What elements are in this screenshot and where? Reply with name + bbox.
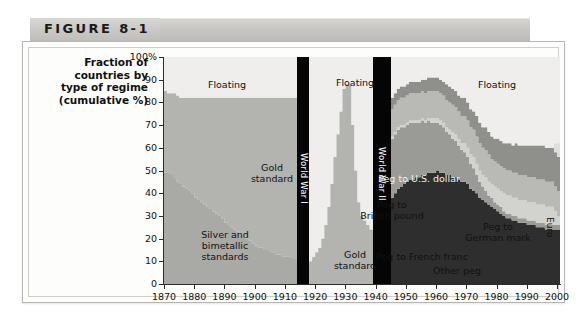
y-tick-mark bbox=[159, 171, 164, 172]
x-tick-mark bbox=[164, 285, 165, 289]
figure-page: FIGURE 8-1 Fraction of countries by type… bbox=[0, 0, 587, 322]
chart-plot-area: World War I World War II Floating Gold s… bbox=[164, 57, 560, 284]
x-axis-line bbox=[163, 284, 561, 285]
y-tick-mark bbox=[159, 261, 164, 262]
y-tick-label: 80 bbox=[115, 97, 157, 107]
x-tick-mark bbox=[406, 285, 407, 289]
x-tick-mark bbox=[527, 285, 528, 289]
y-tick-mark bbox=[159, 239, 164, 240]
world-war-2-band: World War II bbox=[373, 57, 391, 284]
y-tick-label: 70 bbox=[115, 120, 157, 130]
y-tick-label: 50 bbox=[115, 166, 157, 176]
figure-panel: Fraction of countries by type of regime … bbox=[22, 41, 565, 303]
x-tick-mark bbox=[194, 285, 195, 289]
x-tick-mark bbox=[557, 285, 558, 289]
x-tick-mark bbox=[376, 285, 377, 289]
x-tick-mark bbox=[285, 285, 286, 289]
x-tick-mark bbox=[255, 285, 256, 289]
world-war-2-label: World War II bbox=[376, 147, 387, 201]
x-tick-label: 2000 bbox=[537, 291, 577, 302]
y-tick-label: 30 bbox=[115, 211, 157, 221]
x-tick-mark bbox=[345, 285, 346, 289]
y-tick-label: 90 bbox=[115, 75, 157, 85]
x-tick-mark bbox=[224, 285, 225, 289]
x-tick-mark bbox=[466, 285, 467, 289]
x-tick-mark bbox=[436, 285, 437, 289]
figure-number-label: FIGURE 8-1 bbox=[44, 21, 150, 36]
x-tick-mark bbox=[315, 285, 316, 289]
y-tick-label: 0 bbox=[115, 279, 157, 289]
y-axis-tick-labels: 100%9080706050403020100 bbox=[111, 42, 157, 304]
world-war-1-label: World War I bbox=[298, 153, 309, 204]
label-euro: Euro bbox=[545, 217, 555, 237]
y-tick-mark bbox=[159, 80, 164, 81]
y-tick-mark bbox=[159, 193, 164, 194]
stacked-area-chart bbox=[164, 57, 560, 284]
y-tick-label: 100% bbox=[115, 52, 157, 62]
y-tick-mark bbox=[159, 216, 164, 217]
y-tick-label: 10 bbox=[115, 256, 157, 266]
y-tick-label: 20 bbox=[115, 234, 157, 244]
y-tick-mark bbox=[159, 148, 164, 149]
y-tick-label: 40 bbox=[115, 188, 157, 198]
y-tick-mark bbox=[159, 102, 164, 103]
y-tick-label: 60 bbox=[115, 143, 157, 153]
world-war-1-band: World War I bbox=[297, 57, 309, 284]
y-tick-mark bbox=[159, 125, 164, 126]
y-tick-mark bbox=[159, 57, 164, 58]
x-tick-mark bbox=[497, 285, 498, 289]
